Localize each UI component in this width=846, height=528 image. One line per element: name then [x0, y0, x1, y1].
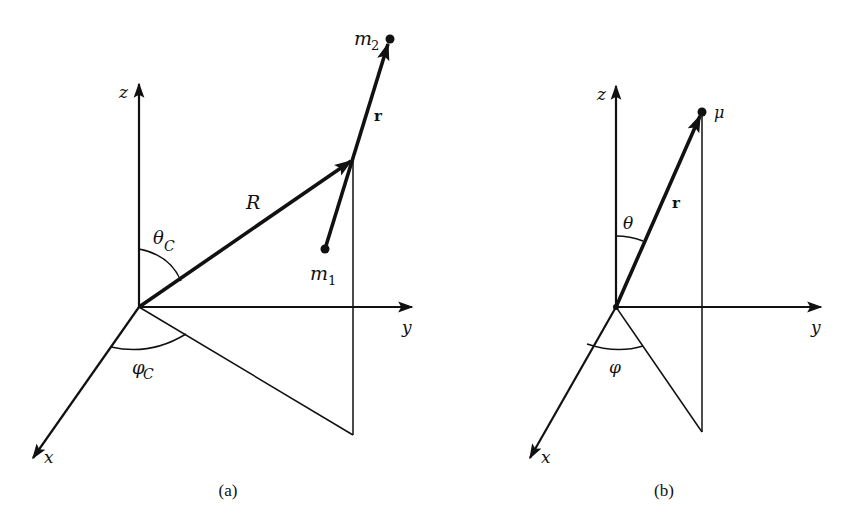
- r-vector-b: [616, 116, 700, 307]
- mass-m1-point: [321, 245, 330, 254]
- R-label: R: [245, 191, 260, 213]
- y-label-b: y: [810, 317, 821, 337]
- caption-b: (b): [654, 481, 674, 500]
- m1-label: m: [310, 262, 328, 284]
- m2-subscript: 2: [371, 38, 379, 53]
- mu-point: [698, 108, 707, 117]
- x-label-b: x: [541, 447, 551, 467]
- R-vector: [139, 161, 351, 307]
- z-label-a: z: [118, 82, 129, 102]
- r-vector-a: [325, 44, 388, 249]
- x-axis-a: [33, 307, 139, 458]
- mass-m2-point: [386, 35, 395, 44]
- phi-c-subscript: C: [143, 366, 154, 382]
- phi-label: φ: [609, 357, 621, 377]
- projection-line-a: [139, 307, 353, 435]
- theta-arc: [616, 236, 643, 241]
- r-label-a: r: [374, 107, 383, 125]
- x-axis-b: [530, 307, 616, 458]
- origin-dot-b: [613, 304, 619, 310]
- panel-a: z y x R r m 2 m 1 θ C φ C (a): [33, 27, 412, 500]
- phi-c-arc: [111, 334, 186, 350]
- z-label-b: z: [596, 84, 607, 104]
- panel-b: z y x μ r θ φ (b): [530, 84, 821, 500]
- m2-label: m: [354, 27, 372, 49]
- mu-label: μ: [714, 103, 724, 122]
- theta-label: θ: [623, 213, 633, 233]
- x-label-a: x: [44, 447, 54, 467]
- r-label-b: r: [672, 194, 681, 212]
- projection-line-b: [616, 307, 702, 432]
- theta-c-label: θ: [153, 227, 164, 248]
- y-label-a: y: [401, 317, 412, 337]
- caption-a: (a): [219, 481, 238, 500]
- m1-subscript: 1: [328, 273, 336, 288]
- theta-c-subscript: C: [164, 238, 175, 254]
- coordinate-diagram: z y x R r m 2 m 1 θ C φ C (a) z y x: [0, 0, 846, 528]
